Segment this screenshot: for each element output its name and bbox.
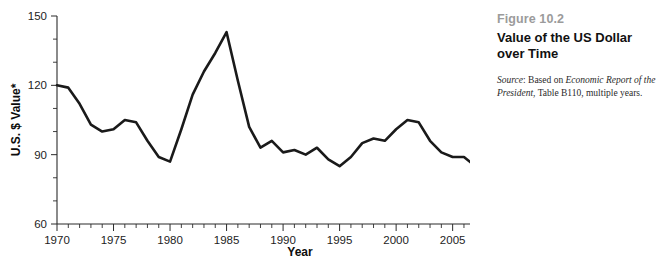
y-axis-title: U.S. $ Value* (9, 83, 23, 156)
x-tick-label-1995: 1995 (327, 234, 353, 246)
y-tick-label-120: 120 (28, 79, 47, 91)
x-axis-ticks (57, 224, 470, 231)
figure-title: Value of the US Dollar over Time (497, 30, 661, 62)
figure-number: Figure 10.2 (497, 12, 661, 26)
caption-block: Figure 10.2 Value of the US Dollar over … (497, 12, 661, 100)
data-series-line (57, 32, 470, 196)
x-axis-title: Year (287, 245, 313, 259)
source-suffix: , Table B110, multiple years. (533, 88, 642, 98)
y-axis-ticks (51, 16, 57, 224)
x-tick-label-1980: 1980 (157, 234, 183, 246)
source-label: Source (497, 75, 523, 85)
line-chart: 6090120150 19701975198019851990199520002… (0, 0, 470, 265)
y-tick-label-150: 150 (28, 10, 47, 22)
x-tick-label-1985: 1985 (214, 234, 240, 246)
y-tick-label-60: 60 (34, 218, 47, 230)
x-axis-tick-labels: 1970197519801985199019952000200520102015 (44, 234, 470, 246)
x-tick-label-1970: 1970 (44, 234, 70, 246)
x-tick-label-2005: 2005 (440, 234, 466, 246)
source-prefix: : Based on (523, 75, 565, 85)
y-tick-label-90: 90 (34, 149, 47, 161)
figure-container: 6090120150 19701975198019851990199520002… (0, 0, 668, 265)
y-axis-tick-labels: 6090120150 (28, 10, 47, 230)
x-tick-label-1975: 1975 (101, 234, 127, 246)
figure-source-note: Source: Based on Economic Report of the … (497, 74, 661, 100)
x-tick-label-2000: 2000 (383, 234, 409, 246)
chart-panel: 6090120150 19701975198019851990199520002… (0, 0, 470, 265)
